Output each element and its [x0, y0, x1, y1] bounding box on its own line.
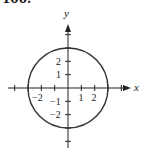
- x-tick-label: 2: [92, 92, 97, 103]
- x-tick-label: −2: [32, 92, 43, 103]
- x-tick-label: 1: [79, 92, 84, 103]
- y-tick-label: 2: [56, 56, 61, 67]
- y-tick-label: 1: [56, 69, 61, 80]
- y-tick-label: −1: [50, 96, 61, 107]
- circle-plot: −2 1 2 2 1 −1 −2 x y: [0, 0, 141, 152]
- x-axis-label: x: [133, 81, 139, 93]
- y-axis-label: y: [63, 7, 69, 19]
- y-tick-label: −2: [50, 109, 61, 120]
- y-axis-arrow-icon: [65, 24, 71, 32]
- figure: 100.: [0, 0, 141, 152]
- x-axis-arrow-icon: [123, 85, 131, 91]
